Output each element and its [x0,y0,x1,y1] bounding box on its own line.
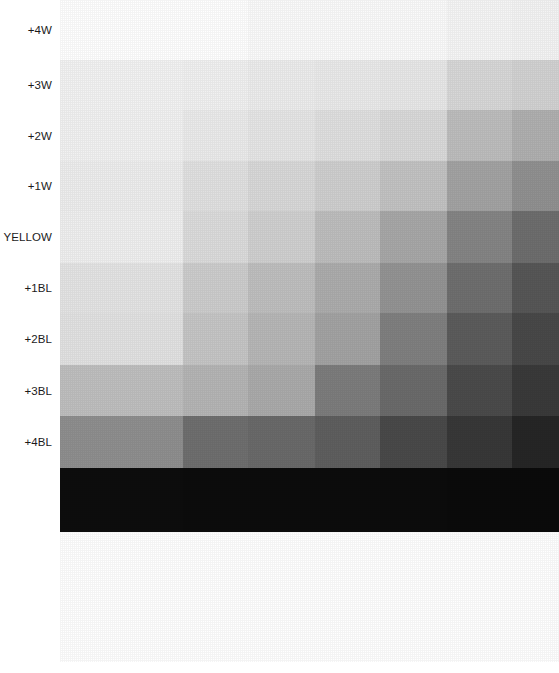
swatch-cell [60,161,183,211]
swatch-cell [447,468,512,532]
swatch-cell [315,468,380,532]
swatch-cell [315,60,380,110]
swatch-cell [380,211,447,263]
swatch-cell [248,263,315,313]
swatch-cell [60,60,183,110]
swatch-cell [60,365,183,416]
swatch-cell [60,211,183,263]
swatch-cell [248,468,315,532]
swatch-cell [248,60,315,110]
swatch-cell [248,110,315,161]
swatch-cell [380,468,447,532]
swatch-cell [512,161,559,211]
row-label-plus4w: +4W [28,24,52,36]
swatch-cell [380,313,447,365]
swatch-cell [183,416,248,468]
swatch-cell [512,211,559,263]
swatch-cell [183,211,248,263]
swatch-cell [183,313,248,365]
swatch-cell [183,365,248,416]
row-label-yellow: YELLOW [3,231,52,243]
swatch-cell [60,110,183,161]
swatch-cell [380,263,447,313]
swatch-row [60,365,559,416]
swatch-cell [183,161,248,211]
swatch-cell [60,468,183,532]
swatch-row [60,468,559,532]
row-label-plus2w: +2W [28,130,52,142]
row-label-plus3bl: +3BL [24,385,52,397]
swatch-row [60,60,559,110]
swatch-cell [447,60,512,110]
tone-scale-chart: +4W+3W+2W+1WYELLOW+1BL+2BL+3BL+4BL [0,0,559,673]
swatch-cell [447,161,512,211]
swatch-cell [447,365,512,416]
swatch-row [60,161,559,211]
swatch-cell [248,416,315,468]
swatch-cell [183,263,248,313]
row-label-plus3w: +3W [28,79,52,91]
swatch-cell [183,468,248,532]
swatch-cell [447,263,512,313]
swatch-row [60,263,559,313]
swatch-cell [512,365,559,416]
swatch-cell [248,0,315,60]
swatch-cell [248,211,315,263]
swatch-cell [60,416,183,468]
swatch-cell [248,313,315,365]
row-label-plus1bl: +1BL [24,282,52,294]
swatch-cell [183,60,248,110]
swatch-cell [315,211,380,263]
swatch-cell [447,313,512,365]
swatch-cell [447,416,512,468]
swatch-cell [315,313,380,365]
swatch-cell [183,110,248,161]
swatch-cell [60,313,183,365]
swatch-cell [60,263,183,313]
swatch-cell [512,110,559,161]
swatch-cell [248,161,315,211]
bottom-page-margin [0,662,559,673]
swatch-cell [315,0,380,60]
swatch-cell [512,60,559,110]
swatch-cell [447,211,512,263]
swatch-cell [512,416,559,468]
swatch-row [60,0,559,60]
swatch-cell [380,416,447,468]
swatch-cell [315,416,380,468]
row-label-plus1w: +1W [28,180,52,192]
swatch-grid [60,0,559,673]
row-label-plus2bl: +2BL [24,333,52,345]
swatch-cell [315,161,380,211]
swatch-cell [447,0,512,60]
swatch-cell [512,263,559,313]
swatch-row [60,313,559,365]
row-label-plus4bl: +4BL [24,436,52,448]
swatch-cell [315,365,380,416]
swatch-cell [512,468,559,532]
row-label-gutter: +4W+3W+2W+1WYELLOW+1BL+2BL+3BL+4BL [0,0,60,673]
swatch-row [60,110,559,161]
swatch-cell [315,110,380,161]
swatch-cell [315,263,380,313]
swatch-cell [380,365,447,416]
swatch-cell [60,0,183,60]
swatch-row [60,211,559,263]
swatch-cell [248,365,315,416]
swatch-cell [512,313,559,365]
swatch-cell [183,0,248,60]
swatch-cell [512,0,559,60]
swatch-cell [447,110,512,161]
swatch-cell [380,110,447,161]
swatch-cell [380,60,447,110]
swatch-cell [380,0,447,60]
swatch-row [60,416,559,468]
swatch-cell [380,161,447,211]
